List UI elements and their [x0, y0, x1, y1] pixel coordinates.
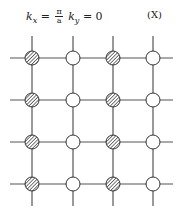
hatched-site-icon [25, 135, 39, 149]
open-site-icon [66, 51, 80, 65]
hatched-site-icon [106, 135, 120, 149]
open-site-icon [146, 51, 160, 65]
hatched-site-icon [25, 93, 39, 107]
open-site-icon [146, 177, 160, 191]
lattice-diagram [0, 0, 184, 213]
open-site-icon [66, 177, 80, 191]
hatched-site-icon [106, 93, 120, 107]
hatched-site-icon [25, 51, 39, 65]
open-site-icon [146, 135, 160, 149]
hatched-site-icon [106, 51, 120, 65]
open-site-icon [66, 135, 80, 149]
open-site-icon [66, 93, 80, 107]
hatched-site-icon [106, 177, 120, 191]
hatched-site-icon [25, 177, 39, 191]
open-site-icon [146, 93, 160, 107]
